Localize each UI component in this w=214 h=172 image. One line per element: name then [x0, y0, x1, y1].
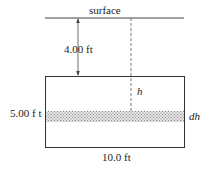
surface-label: surface — [89, 5, 121, 16]
depth-label: 4.00 ft — [64, 44, 93, 55]
arrow-head-up-icon — [76, 18, 80, 23]
h-label: h — [137, 86, 143, 97]
width-label: 10.0 ft — [102, 152, 131, 163]
hatched-layer-dh — [46, 111, 184, 122]
dh-label: dh — [189, 111, 200, 122]
diagram-canvas — [0, 0, 214, 172]
height-label: 5.00 f t — [10, 108, 41, 119]
arrow-head-down-icon — [76, 71, 80, 76]
